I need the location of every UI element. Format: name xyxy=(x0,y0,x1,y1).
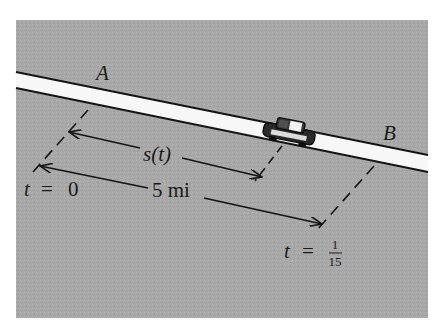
end-time-equals: = xyxy=(302,239,314,263)
motion-diagram: A B s(t) 5 mi t = 0 t = 1 15 xyxy=(0,0,444,328)
start-time-value: 0 xyxy=(68,177,79,201)
point-b-label: B xyxy=(383,121,396,145)
end-time-denominator: 15 xyxy=(329,254,342,269)
start-time-equals: = xyxy=(41,177,53,201)
background-panel xyxy=(16,20,428,318)
total-distance-label: 5 mi xyxy=(152,178,190,202)
distance-function-label: s(t) xyxy=(143,142,171,166)
point-a-label: A xyxy=(94,61,109,85)
end-time-numerator: 1 xyxy=(332,237,339,252)
